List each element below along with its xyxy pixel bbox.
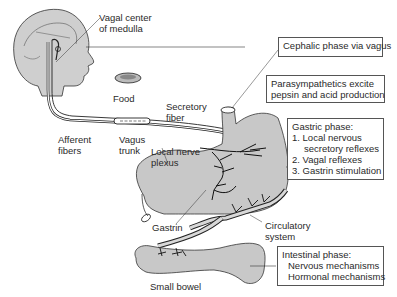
label-small-bowel: Small bowel [150,281,201,292]
label-circulatory-system: Circulatory system [265,220,310,242]
label-food: Food [113,93,135,104]
label-vagus-trunk: Vagus trunk [119,134,145,156]
box-gastric-phase: Gastric phase: 1. Local nervous secretor… [287,118,384,180]
head-silhouette [14,9,94,96]
box-parasympathetics: Parasympathetics excite pepsin and acid … [266,75,385,103]
small-bowel [135,243,265,283]
box-intestinal-phase: Intestinal phase: Nervous mechanisms Hor… [277,246,384,286]
label-local-nerve-plexus: Local nerve plexus [151,146,200,168]
label-secretory-fiber: Secretory fiber [166,101,207,123]
label-gastrin: Gastrin [152,222,183,233]
label-vagal-center: Vagal center of medulla [99,12,152,34]
label-afferent-fibers: Afferent fibers [58,134,91,156]
box-cephalic-phase: Cephalic phase via vagus [278,37,383,57]
